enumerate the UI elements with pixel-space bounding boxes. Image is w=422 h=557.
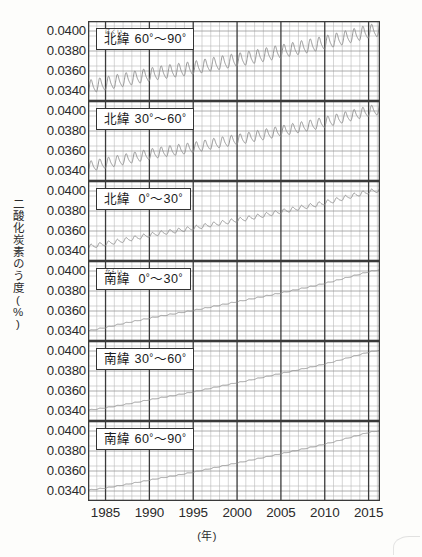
y-tick-label: 0.0360 [47,464,86,477]
y-tick-label: 0.0340 [47,484,86,497]
x-tick-label: 2005 [258,506,304,520]
panel-caption-south-30-60: 南緯 30°〜60° [96,348,194,370]
y-tick-label: 0.0400 [47,344,86,357]
caption-hemisphere: 北緯 [104,32,131,46]
caption-hemisphere: 南緯 [104,352,131,366]
scan-artifact-arc [393,536,420,555]
y-tick-label: 0.0340 [47,84,86,97]
y-tick-label: 0.0400 [47,184,86,197]
caption-latitude-range: 60°〜90° [131,32,187,46]
y-tick-label: 0.0400 [47,104,86,117]
panel-caption-north-0-30: 北緯 0°〜30° [96,188,191,210]
x-tick-label: 2015 [346,506,392,520]
caption-latitude-range: 30°〜60° [131,352,187,366]
y-tick-label: 0.0400 [47,424,86,437]
caption-hemisphere: 南緯 [104,432,131,446]
y-tick-label: 0.0380 [47,124,86,137]
y-tick-label: 0.0360 [47,384,86,397]
y-tick-label: 0.0360 [47,144,86,157]
y-tick-label: 0.0340 [47,164,86,177]
y-tick-label: 0.0380 [47,364,86,377]
panel-caption-south-0-30: なんい南緯 0°〜30° [96,268,191,290]
caption-hemisphere: 北緯 [104,192,131,206]
x-axis-tick-labels: 1985199019952000200520102015 [0,506,422,526]
x-tick-label: 2000 [214,506,260,520]
x-tick-label: 2010 [302,506,348,520]
caption-latitude-range: 60°〜90° [131,432,187,446]
x-tick-label: 1990 [126,506,172,520]
caption-furigana: ほくい [105,29,123,34]
y-tick-label: 0.0360 [47,64,86,77]
panel-caption-north-30-60: 北緯 30°〜60° [96,108,194,130]
caption-hemisphere: 南緯 [104,272,131,286]
x-axis-unit: (年) [0,527,422,543]
x-tick-label: 1985 [83,506,129,520]
caption-latitude-range: 0°〜30° [131,192,183,206]
y-tick-label: 0.0380 [47,44,86,57]
caption-latitude-range: 0°〜30° [131,272,183,286]
y-tick-label: 0.0380 [47,204,86,217]
y-tick-label: 0.0340 [47,404,86,417]
chart-figure: 二酸化炭素のう度(%) 0.04000.03800.03600.03400.04… [0,0,422,557]
y-tick-label: 0.0400 [47,24,86,37]
panel-caption-south-60-90: 南緯 60°〜90° [96,428,194,450]
y-tick-label: 0.0400 [47,264,86,277]
x-axis-unit-text: (年) [197,530,217,542]
caption-furigana: なんい [105,269,123,274]
y-tick-label: 0.0380 [47,284,86,297]
y-tick-label: 0.0360 [47,224,86,237]
panel-caption-north-60-90: ほくい北緯 60°〜90° [96,28,194,50]
y-tick-label: 0.0380 [47,444,86,457]
caption-latitude-range: 30°〜60° [131,112,187,126]
y-tick-label: 0.0340 [47,244,86,257]
caption-hemisphere: 北緯 [104,112,131,126]
y-tick-label: 0.0340 [47,324,86,337]
y-tick-label: 0.0360 [47,304,86,317]
y-axis-title: 二酸化炭素のう度(%) [2,198,24,330]
y-axis-tick-labels: 0.04000.03800.03600.03400.04000.03800.03… [22,0,88,557]
x-tick-label: 1995 [170,506,216,520]
